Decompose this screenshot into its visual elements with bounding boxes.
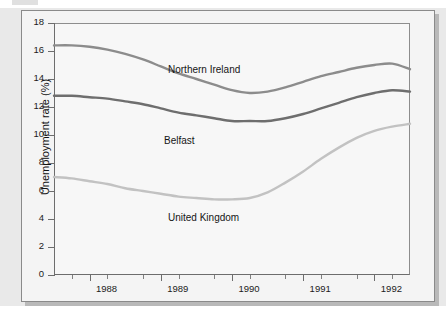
x-axis-tick-label: 1989 [158,283,198,294]
x-axis-tick [161,275,162,281]
y-axis-tick-label: 6 [22,185,44,195]
x-axis-tick [374,275,375,281]
y-axis-tick-label: 16 [22,45,44,55]
x-axis-tick [232,275,233,281]
plot-wrapper: Unemployment rate (%) 024681012141618 19… [22,11,436,303]
x-axis-minor-tick [321,275,322,279]
x-axis-minor-tick [143,275,144,279]
x-axis-tick-label: 1990 [229,283,269,294]
x-axis-minor-tick [179,275,180,279]
y-axis-tick-label: 18 [22,17,44,27]
series-label-belfast: Belfast [164,135,195,146]
y-axis-tick-label: 8 [22,157,44,167]
x-axis-tick-label: 1992 [371,283,411,294]
y-axis-tick-label: 14 [22,73,44,83]
x-axis-minor-tick [392,275,393,279]
x-axis-tick-label: 1988 [87,283,127,294]
series-label-northern-ireland: Northern Ireland [168,64,240,75]
x-axis-minor-tick [250,275,251,279]
series-line [54,124,410,200]
y-axis-tick-label: 2 [22,241,44,251]
chart-figure: Unemployment rate (%) 024681012141618 19… [21,10,435,302]
series-lines [54,23,410,275]
x-axis-tick [303,275,304,281]
x-axis-minor-tick [357,275,358,279]
series-label-united-kingdom: United Kingdom [168,212,239,223]
x-axis-minor-tick [285,275,286,279]
page-top-artifact [12,0,38,5]
x-axis-minor-tick [72,275,73,279]
y-axis-tick [48,275,55,276]
y-axis-tick-label: 4 [22,213,44,223]
x-axis-minor-tick [214,275,215,279]
y-axis-tick-label: 10 [22,129,44,139]
x-axis-tick-label: 1991 [300,283,340,294]
x-axis-tick [90,275,91,281]
y-axis-tick-label: 0 [22,269,44,279]
y-axis-tick-label: 12 [22,101,44,111]
series-line [54,90,410,121]
x-axis-minor-tick [107,275,108,279]
